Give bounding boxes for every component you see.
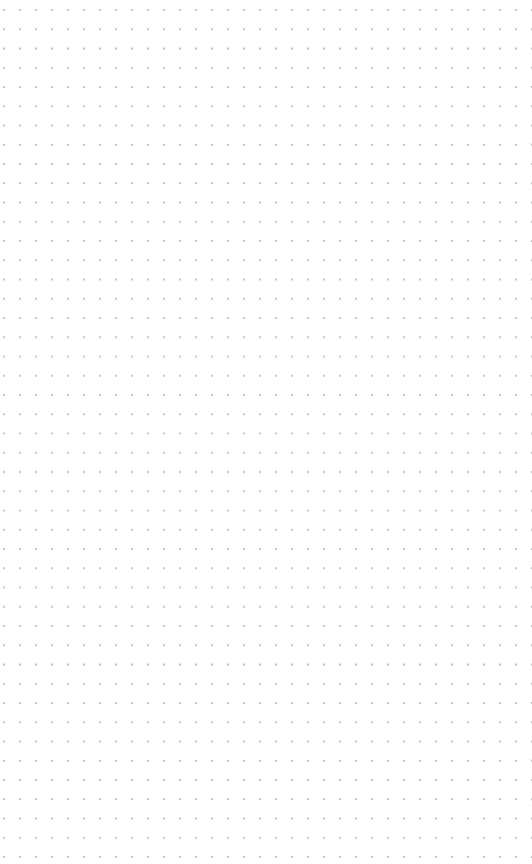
dot-grid-canvas[interactable]: [0, 0, 532, 864]
